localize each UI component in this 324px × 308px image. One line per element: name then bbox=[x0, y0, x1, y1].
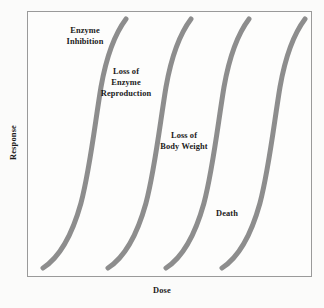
curve-label-loss-body-weight: Loss of Body Weight bbox=[153, 130, 215, 152]
curve-label-loss-enzyme-reproduction: Loss of Enzyme Reproduction bbox=[89, 66, 163, 100]
curve-label-line: Enzyme bbox=[89, 77, 163, 88]
y-axis-label: Response bbox=[9, 117, 18, 169]
curve-death bbox=[222, 19, 305, 268]
x-axis-label: Dose bbox=[132, 286, 192, 295]
curve-label-line: Body Weight bbox=[153, 141, 215, 152]
curve-label-line: Reproduction bbox=[89, 88, 163, 99]
dose-response-figure: Enzyme Inhibition Loss of Enzyme Reprodu… bbox=[0, 0, 324, 308]
curve-enzyme-inhibition bbox=[43, 19, 126, 268]
curve-label-line: Loss of bbox=[153, 130, 215, 141]
curve-label-death: Death bbox=[207, 208, 247, 219]
curve-label-enzyme-inhibition: Enzyme Inhibition bbox=[53, 25, 117, 47]
curve-label-line: Inhibition bbox=[53, 36, 117, 47]
curve-label-line: Death bbox=[207, 208, 247, 219]
curve-label-line: Enzyme bbox=[53, 25, 117, 36]
curve-label-line: Loss of bbox=[89, 66, 163, 77]
